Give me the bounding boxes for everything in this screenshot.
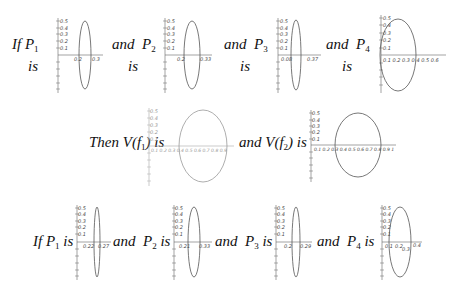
svg-text:0.4: 0.4 (150, 115, 158, 121)
plot-vf2: 0.50.40.30.20.1 0.1 0.2 0.3 0.4 0.5 0.6 … (308, 110, 400, 185)
svg-text:0.5: 0.5 (150, 108, 158, 114)
label-and-p2-row3: and P2 is (113, 233, 170, 254)
label-if-p1-row3: If P1 is (33, 233, 73, 254)
svg-text:0.1: 0.1 (150, 136, 158, 142)
svg-text:0.2: 0.2 (60, 38, 68, 44)
svg-text:0.29: 0.29 (300, 243, 311, 249)
svg-text:0.33: 0.33 (199, 243, 210, 249)
svg-text:0.5: 0.5 (280, 18, 288, 24)
plot-p4-row3: 0.50.40.30.20.1 0.10.20.30.4 (380, 205, 425, 280)
svg-text:0.1: 0.1 (78, 231, 86, 237)
svg-text:0.1: 0.1 (175, 231, 183, 237)
interval-ellipse-chart: 0.50.40.30.20.1 0.20.33 (162, 18, 217, 93)
label-and-p3-row3: and P3 is (215, 233, 272, 254)
svg-text:0.1: 0.1 (383, 45, 391, 51)
svg-text:0.4: 0.4 (383, 211, 391, 217)
svg-text:0.3: 0.3 (60, 31, 68, 37)
label-and-p2-row1: and P2 (112, 36, 156, 57)
label-is: is (240, 58, 250, 74)
label-and-p4-row3: and P4 is (317, 233, 374, 254)
svg-text:0.5: 0.5 (383, 15, 391, 21)
label-and-p3-row1: and P3 (224, 36, 268, 57)
svg-text:0.2: 0.2 (150, 129, 158, 135)
svg-text:0.33: 0.33 (200, 56, 211, 62)
interval-ellipse-chart: 0.50.40.30.20.1 0.10.20.30.4 (380, 205, 425, 280)
plot-p3-row1: 0.50.40.30.20.1 0.080.37 (275, 18, 325, 93)
interval-ellipse-chart: 0.50.40.30.20.1 0.20.29 (274, 205, 314, 280)
svg-text:0.22: 0.22 (83, 243, 94, 249)
svg-text:0.1 0.2 0.3 0.4 0.5 0.6: 0.1 0.2 0.3 0.4 0.5 0.6 (383, 57, 439, 63)
svg-text:0.2: 0.2 (74, 56, 82, 62)
label-and-p4-row1: and P4 (326, 36, 370, 57)
svg-text:0.2: 0.2 (312, 129, 320, 135)
plot-p1-row3: 0.50.40.30.20.1 0.220.27 (75, 205, 113, 280)
svg-text:0.3: 0.3 (150, 122, 158, 128)
svg-text:0.3: 0.3 (92, 56, 100, 62)
label-and-vf2: and V(f2) is (239, 134, 307, 155)
plot-p3-row3: 0.50.40.30.20.1 0.20.29 (274, 205, 314, 280)
svg-text:0.4: 0.4 (277, 211, 285, 217)
svg-text:0.2: 0.2 (175, 224, 183, 230)
svg-text:0.5: 0.5 (312, 110, 320, 116)
svg-text:0.1: 0.1 (280, 45, 288, 51)
svg-text:0.2: 0.2 (167, 38, 175, 44)
svg-text:0.5: 0.5 (167, 18, 175, 24)
svg-text:0.2: 0.2 (78, 224, 86, 230)
svg-text:0.2: 0.2 (383, 37, 391, 43)
label-is: is (342, 58, 352, 74)
svg-text:0.2: 0.2 (280, 38, 288, 44)
svg-text:0.3: 0.3 (402, 246, 410, 252)
svg-text:0.1: 0.1 (277, 231, 285, 237)
svg-text:0.4: 0.4 (78, 211, 86, 217)
interval-ellipse-chart: 0.50.40.30.20.1 0.1 0.2 0.3 0.4 0.5 0.6 … (308, 110, 400, 185)
interval-ellipse-chart: 0.50.40.30.20.1 0.080.37 (275, 18, 325, 93)
svg-text:0.2: 0.2 (277, 224, 285, 230)
svg-text:0.4: 0.4 (175, 211, 183, 217)
label-is: is (28, 58, 38, 74)
plot-vf1: 0.50.40.30.20.1 0.1 0.2 0.3 0.4 0.5 0.6 … (146, 108, 236, 188)
svg-text:0.2: 0.2 (284, 243, 292, 249)
svg-text:0.4: 0.4 (413, 242, 421, 248)
interval-ellipse-chart: 0.50.40.30.20.1 0.1 0.2 0.3 0.4 0.5 0.6 (378, 15, 448, 93)
interval-ellipse-chart: 0.50.40.30.20.1 0.220.27 (75, 205, 113, 280)
svg-text:0.3: 0.3 (280, 31, 288, 37)
interval-ellipse-chart: 0.50.40.30.20.1 0.20.3 (55, 18, 105, 93)
svg-text:0.1: 0.1 (312, 136, 320, 142)
label-if-p1-row1: If P1 (12, 36, 39, 57)
interval-ellipse-chart: 0.50.40.30.20.1 0.1 0.2 0.3 0.4 0.5 0.6 … (146, 108, 236, 188)
svg-text:0.1 0.2 0.3 0.4 0.5 0.6 0.7 0.: 0.1 0.2 0.3 0.4 0.5 0.6 0.7 0.8 0.9 1 (314, 147, 394, 152)
svg-text:0.08: 0.08 (281, 56, 292, 62)
svg-text:0.37: 0.37 (307, 56, 319, 62)
svg-text:0.3: 0.3 (167, 31, 175, 37)
svg-text:0.1 0.2 0.3 0.4 0.5 0.6 0.7 0.: 0.1 0.2 0.3 0.4 0.5 0.6 0.7 0.8 0.9 (151, 148, 227, 153)
plot-p4-row1: 0.50.40.30.20.1 0.1 0.2 0.3 0.4 0.5 0.6 (378, 15, 448, 93)
svg-text:0.1: 0.1 (60, 45, 68, 51)
svg-text:0.5: 0.5 (60, 18, 68, 24)
plot-p2-row3: 0.50.40.30.20.1 0.210.33 (172, 205, 214, 280)
label-is: is (128, 58, 138, 74)
interval-ellipse-chart: 0.50.40.30.20.1 0.210.33 (172, 205, 214, 280)
svg-text:0.1: 0.1 (167, 45, 175, 51)
plot-p1-row1: 0.50.40.30.20.1 0.20.3 (55, 18, 105, 93)
plot-p2-row1: 0.50.40.30.20.1 0.20.33 (162, 18, 217, 93)
